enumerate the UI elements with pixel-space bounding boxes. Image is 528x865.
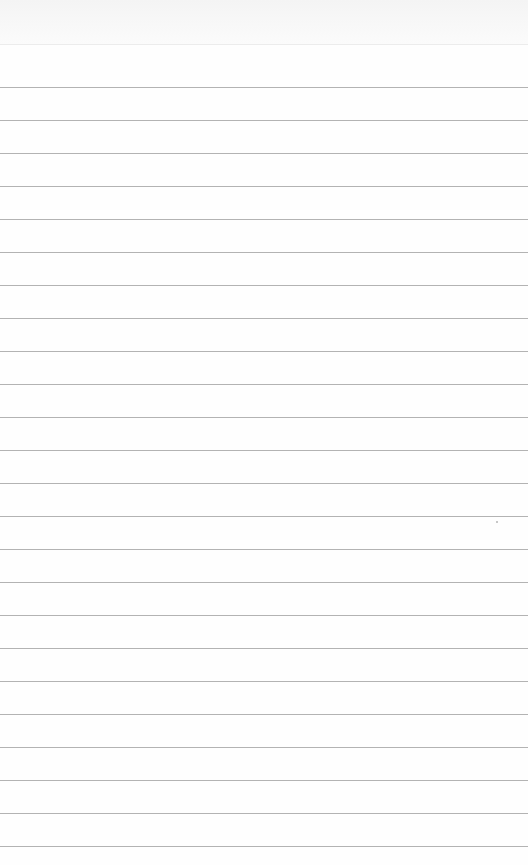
rule-line [0,549,528,550]
rule-line [0,186,528,187]
rule-line [0,846,528,847]
rule-line [0,747,528,748]
rule-line [0,813,528,814]
rule-line [0,648,528,649]
rule-line [0,318,528,319]
rule-line [0,219,528,220]
rule-line [0,120,528,121]
rule-line [0,516,528,517]
rule-line [0,450,528,451]
paper-sheet [0,45,528,865]
rule-line [0,384,528,385]
rule-line [0,417,528,418]
paper-speck [496,521,498,523]
rule-line [0,714,528,715]
pad-header-binding [0,0,528,44]
rule-line [0,615,528,616]
rule-line [0,87,528,88]
rule-line [0,351,528,352]
rule-line [0,153,528,154]
rule-line [0,252,528,253]
rule-line [0,681,528,682]
rule-line [0,483,528,484]
rule-line [0,582,528,583]
rule-line [0,780,528,781]
rule-line [0,285,528,286]
